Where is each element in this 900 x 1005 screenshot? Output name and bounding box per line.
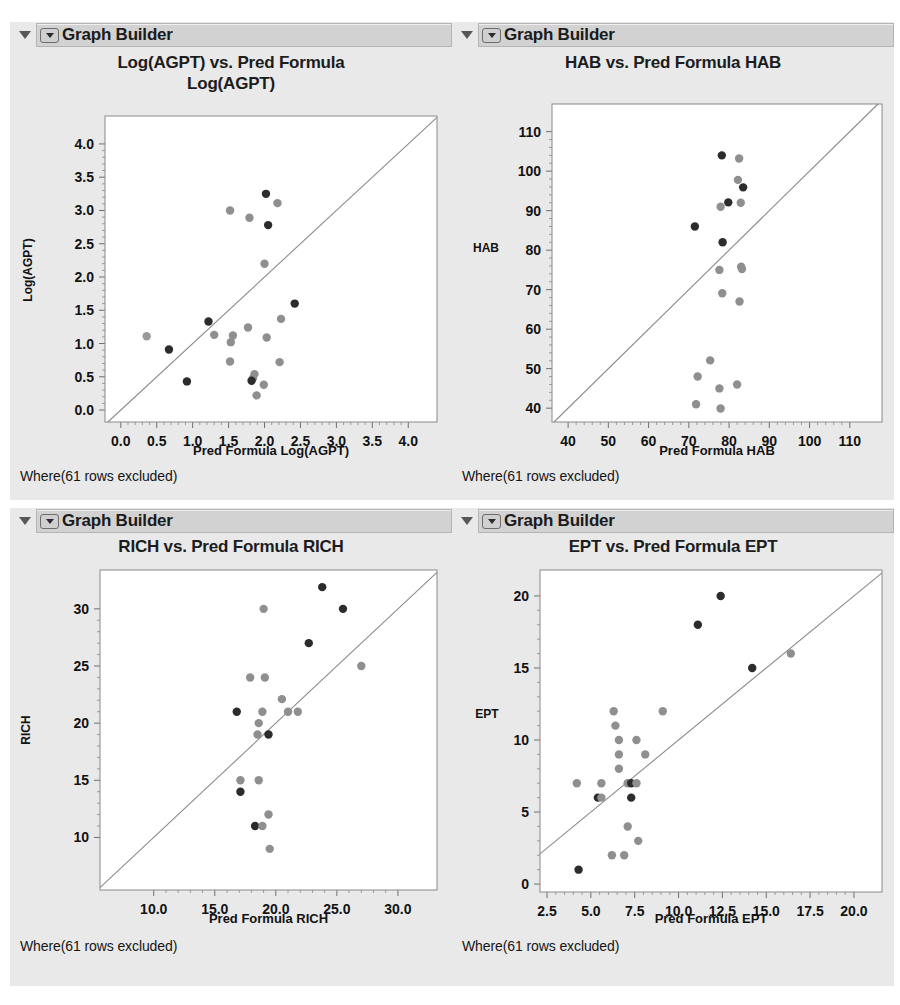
data-point[interactable] bbox=[739, 183, 747, 191]
data-point[interactable] bbox=[264, 810, 272, 818]
data-point[interactable] bbox=[264, 221, 272, 229]
data-point[interactable] bbox=[609, 707, 617, 715]
y-tick-label: 40 bbox=[525, 400, 541, 416]
data-point[interactable] bbox=[252, 391, 260, 399]
data-point[interactable] bbox=[724, 198, 732, 206]
data-point[interactable] bbox=[357, 662, 365, 670]
data-point[interactable] bbox=[615, 736, 623, 744]
data-point[interactable] bbox=[236, 788, 244, 796]
data-point[interactable] bbox=[236, 776, 244, 784]
data-point[interactable] bbox=[693, 372, 701, 380]
data-point[interactable] bbox=[262, 333, 270, 341]
y-tick-label: 0.5 bbox=[75, 369, 95, 385]
data-point[interactable] bbox=[611, 721, 619, 729]
data-point[interactable] bbox=[615, 765, 623, 773]
data-point[interactable] bbox=[259, 605, 267, 613]
plot-background bbox=[552, 104, 882, 422]
data-point[interactable] bbox=[735, 297, 743, 305]
data-point[interactable] bbox=[294, 708, 302, 716]
data-point[interactable] bbox=[260, 259, 268, 267]
data-point[interactable] bbox=[210, 331, 218, 339]
data-point[interactable] bbox=[632, 736, 640, 744]
data-point[interactable] bbox=[244, 323, 252, 331]
data-point[interactable] bbox=[165, 345, 173, 353]
data-point[interactable] bbox=[246, 673, 254, 681]
data-point[interactable] bbox=[659, 707, 667, 715]
data-point[interactable] bbox=[691, 222, 699, 230]
data-point[interactable] bbox=[787, 649, 795, 657]
where-clause-footer-hab: Where(61 rows excluded) bbox=[462, 468, 619, 484]
y-tick-label: 110 bbox=[518, 124, 541, 140]
data-point[interactable] bbox=[226, 357, 234, 365]
y-tick-label: 100 bbox=[518, 163, 542, 179]
data-point[interactable] bbox=[339, 605, 347, 613]
data-point[interactable] bbox=[251, 822, 259, 830]
data-point[interactable] bbox=[735, 154, 743, 162]
scatter-plot-agpt: 0.00.51.01.52.02.53.03.54.00.00.51.01.52… bbox=[10, 22, 452, 460]
data-point[interactable] bbox=[692, 400, 700, 408]
data-point[interactable] bbox=[275, 358, 283, 366]
data-point[interactable] bbox=[255, 719, 263, 727]
data-point[interactable] bbox=[620, 851, 628, 859]
plot-background bbox=[540, 570, 882, 892]
y-tick-label: 0.0 bbox=[75, 402, 95, 418]
data-point[interactable] bbox=[264, 730, 272, 738]
data-point[interactable] bbox=[597, 779, 605, 787]
data-point[interactable] bbox=[227, 338, 235, 346]
data-point[interactable] bbox=[608, 851, 616, 859]
data-point[interactable] bbox=[278, 695, 286, 703]
data-point[interactable] bbox=[253, 730, 261, 738]
data-point[interactable] bbox=[715, 384, 723, 392]
y-tick-label: 2.5 bbox=[75, 236, 95, 252]
data-point[interactable] bbox=[734, 176, 742, 184]
data-point[interactable] bbox=[255, 776, 263, 784]
data-point[interactable] bbox=[183, 377, 191, 385]
data-point[interactable] bbox=[597, 793, 605, 801]
data-point[interactable] bbox=[738, 265, 746, 273]
data-point[interactable] bbox=[258, 822, 266, 830]
data-point[interactable] bbox=[615, 750, 623, 758]
data-point[interactable] bbox=[716, 592, 724, 600]
data-point[interactable] bbox=[632, 779, 640, 787]
data-point[interactable] bbox=[706, 356, 714, 364]
data-point[interactable] bbox=[718, 238, 726, 246]
data-point[interactable] bbox=[716, 203, 724, 211]
data-point[interactable] bbox=[641, 750, 649, 758]
data-point[interactable] bbox=[623, 822, 631, 830]
x-tick-label: 5.0 bbox=[581, 903, 601, 919]
x-tick-label: 60 bbox=[641, 433, 657, 449]
data-point[interactable] bbox=[574, 865, 582, 873]
data-point[interactable] bbox=[318, 583, 326, 591]
data-point[interactable] bbox=[273, 199, 281, 207]
data-point[interactable] bbox=[715, 266, 723, 274]
data-point[interactable] bbox=[261, 673, 269, 681]
y-tick-label: 10 bbox=[513, 732, 529, 748]
data-point[interactable] bbox=[737, 199, 745, 207]
data-point[interactable] bbox=[260, 381, 268, 389]
y-tick-label: 20 bbox=[513, 588, 529, 604]
data-point[interactable] bbox=[245, 214, 253, 222]
data-point[interactable] bbox=[142, 332, 150, 340]
data-point[interactable] bbox=[305, 639, 313, 647]
data-point[interactable] bbox=[733, 380, 741, 388]
data-point[interactable] bbox=[627, 793, 635, 801]
data-point[interactable] bbox=[233, 708, 241, 716]
data-point[interactable] bbox=[718, 289, 726, 297]
data-point[interactable] bbox=[716, 404, 724, 412]
x-tick-label: 20.0 bbox=[840, 903, 867, 919]
data-point[interactable] bbox=[718, 151, 726, 159]
data-point[interactable] bbox=[262, 190, 270, 198]
data-point[interactable] bbox=[277, 315, 285, 323]
data-point[interactable] bbox=[634, 837, 642, 845]
data-point[interactable] bbox=[266, 845, 274, 853]
data-point[interactable] bbox=[226, 206, 234, 214]
data-point[interactable] bbox=[694, 621, 702, 629]
data-point[interactable] bbox=[291, 299, 299, 307]
data-point[interactable] bbox=[748, 664, 756, 672]
data-point[interactable] bbox=[247, 377, 255, 385]
data-point[interactable] bbox=[573, 779, 581, 787]
y-tick-label: 60 bbox=[525, 321, 541, 337]
data-point[interactable] bbox=[204, 317, 212, 325]
data-point[interactable] bbox=[284, 708, 292, 716]
data-point[interactable] bbox=[258, 708, 266, 716]
